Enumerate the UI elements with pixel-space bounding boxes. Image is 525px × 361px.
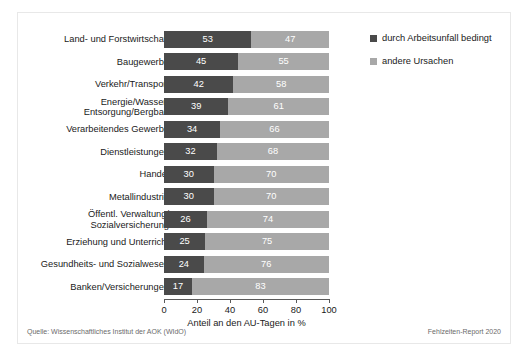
bar-value-label: 61	[273, 102, 283, 111]
bar-value-label: 24	[179, 260, 189, 269]
bar-segment-andere-ursachen: 66	[220, 121, 329, 138]
chart-bar-row: Verarbeitendes Gewerbe3466	[18, 118, 512, 141]
footer-source-text: Quelle: Wissenschaftliches Institut der …	[27, 328, 186, 335]
bar-track: 2476	[164, 256, 329, 273]
chart-bar-row: Erziehung und Unterricht2575	[18, 231, 512, 254]
chart-bar-row: Dienstleistungen3268	[18, 141, 512, 164]
category-label: Dienstleistungen	[0, 147, 169, 158]
x-axis-tick	[164, 299, 165, 303]
category-label: Energie/Wasser/ Entsorgung/Bergbau	[0, 96, 169, 117]
x-axis-tick-label: 0	[161, 305, 166, 315]
bar-value-label: 68	[268, 147, 278, 156]
chart-bar-row: Handel3070	[18, 163, 512, 186]
x-axis-tick-label: 20	[192, 305, 202, 315]
chart-legend: durch Arbeitsunfall bedingtandere Ursach…	[370, 33, 492, 79]
bar-value-label: 42	[193, 80, 203, 89]
bar-track: 3070	[164, 166, 329, 183]
bar-segment-andere-ursachen: 74	[207, 211, 329, 228]
legend-label: durch Arbeitsunfall bedingt	[382, 33, 492, 43]
bar-segment-andere-ursachen: 70	[214, 166, 330, 183]
bar-segment-arbeitsunfall: 24	[164, 256, 204, 273]
bar-segment-arbeitsunfall: 42	[164, 76, 233, 93]
x-axis-tick-label: 40	[225, 305, 235, 315]
bar-value-label: 25	[179, 237, 189, 246]
bar-value-label: 39	[191, 102, 201, 111]
bar-segment-arbeitsunfall: 30	[164, 188, 214, 205]
bar-track: 4555	[164, 53, 329, 70]
legend-swatch-icon	[370, 35, 377, 42]
x-axis-tick	[263, 299, 264, 303]
bar-value-label: 17	[173, 282, 183, 291]
bar-segment-arbeitsunfall: 25	[164, 233, 205, 250]
category-label: Banken/Versicherungen	[0, 282, 169, 293]
x-axis-line	[164, 299, 329, 300]
bar-segment-andere-ursachen: 75	[205, 233, 329, 250]
bar-track: 4258	[164, 76, 329, 93]
bar-segment-andere-ursachen: 76	[204, 256, 329, 273]
category-label: Verarbeitendes Gewerbe	[0, 124, 169, 135]
chart-figure: Land- und Forstwirtschaft5347Baugewerbe4…	[17, 12, 511, 344]
x-axis-tick	[329, 299, 330, 303]
category-label: Öffentl. Verwaltung/ Sozialversicherung	[0, 209, 169, 230]
bar-segment-andere-ursachen: 61	[228, 98, 329, 115]
x-axis-title: Anteil an den AU-Tagen in %	[164, 318, 329, 328]
legend-item: andere Ursachen	[370, 56, 492, 66]
bar-value-label: 58	[276, 80, 286, 89]
bar-segment-arbeitsunfall: 39	[164, 98, 228, 115]
chart-bar-row: Öffentl. Verwaltung/ Sozialversicherung2…	[18, 208, 512, 231]
bar-segment-andere-ursachen: 58	[233, 76, 329, 93]
bar-value-label: 75	[262, 237, 272, 246]
category-label: Handel	[0, 169, 169, 180]
chart-bar-row: Gesundheits- und Sozialwesen2476	[18, 253, 512, 276]
chart-bar-row: Metallindustrie3070	[18, 186, 512, 209]
bar-segment-arbeitsunfall: 34	[164, 121, 220, 138]
bar-value-label: 45	[196, 57, 206, 66]
bar-value-label: 30	[184, 192, 194, 201]
bar-segment-arbeitsunfall: 53	[164, 31, 251, 48]
bar-track: 1783	[164, 278, 329, 295]
legend-swatch-icon	[370, 58, 377, 65]
bar-segment-andere-ursachen: 47	[251, 31, 329, 48]
bar-segment-arbeitsunfall: 32	[164, 143, 217, 160]
bar-value-label: 32	[185, 147, 195, 156]
x-axis-tick	[230, 299, 231, 303]
bar-track: 3070	[164, 188, 329, 205]
bar-value-label: 66	[269, 125, 279, 134]
bar-segment-arbeitsunfall: 45	[164, 53, 238, 70]
x-axis-tick	[197, 299, 198, 303]
bar-segment-arbeitsunfall: 30	[164, 166, 214, 183]
bar-value-label: 76	[261, 260, 271, 269]
bar-value-label: 26	[180, 215, 190, 224]
legend-item: durch Arbeitsunfall bedingt	[370, 33, 492, 43]
bar-track: 3268	[164, 143, 329, 160]
bar-value-label: 55	[278, 57, 288, 66]
bar-value-label: 70	[266, 170, 276, 179]
bar-segment-andere-ursachen: 55	[238, 53, 329, 70]
bar-track: 3961	[164, 98, 329, 115]
x-axis-tick	[296, 299, 297, 303]
bar-value-label: 70	[266, 192, 276, 201]
bar-track: 2575	[164, 233, 329, 250]
bar-value-label: 34	[187, 125, 197, 134]
footer-report-text: Fehlzeiten-Report 2020	[428, 328, 501, 335]
bar-value-label: 74	[263, 215, 273, 224]
category-label: Metallindustrie	[0, 192, 169, 203]
bar-track: 5347	[164, 31, 329, 48]
bar-segment-andere-ursachen: 83	[192, 278, 329, 295]
category-label: Land- und Forstwirtschaft	[0, 34, 169, 45]
bar-segment-arbeitsunfall: 17	[164, 278, 192, 295]
bar-segment-andere-ursachen: 68	[217, 143, 329, 160]
bar-value-label: 47	[285, 35, 295, 44]
bar-track: 2674	[164, 211, 329, 228]
bar-value-label: 53	[203, 35, 213, 44]
category-label: Erziehung und Unterricht	[0, 237, 169, 248]
category-label: Baugewerbe	[0, 57, 169, 68]
bar-segment-andere-ursachen: 70	[214, 188, 330, 205]
category-label: Verkehr/Transport	[0, 79, 169, 90]
bar-track: 3466	[164, 121, 329, 138]
legend-label: andere Ursachen	[382, 56, 453, 66]
bar-value-label: 83	[255, 282, 265, 291]
bar-value-label: 30	[184, 170, 194, 179]
chart-bar-row: Energie/Wasser/ Entsorgung/Bergbau3961	[18, 96, 512, 119]
category-label: Gesundheits- und Sozialwesen	[0, 259, 169, 270]
